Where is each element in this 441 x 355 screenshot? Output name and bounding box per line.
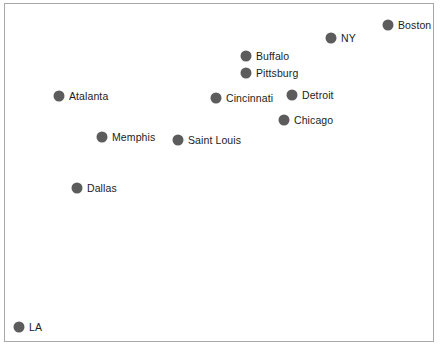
data-point-label: Detroit xyxy=(302,89,334,101)
data-point-marker xyxy=(383,20,394,31)
data-point-marker xyxy=(72,183,83,194)
data-point-marker xyxy=(173,135,184,146)
caption-strip xyxy=(4,345,434,355)
data-point-label: Atalanta xyxy=(69,90,108,102)
data-point-marker xyxy=(241,51,252,62)
data-point-marker xyxy=(326,33,337,44)
data-point-label: LA xyxy=(29,321,42,333)
data-point-label: Saint Louis xyxy=(188,134,241,146)
data-point-label: NY xyxy=(341,32,356,44)
data-point-label: Pittsburg xyxy=(256,67,298,79)
data-point-label: Chicago xyxy=(294,114,333,126)
data-point-marker xyxy=(14,322,25,333)
data-point-marker xyxy=(279,115,290,126)
data-point-label: Cincinnati xyxy=(226,92,273,104)
data-point-label: Dallas xyxy=(87,182,117,194)
data-point-marker xyxy=(97,132,108,143)
data-point-marker xyxy=(54,91,65,102)
data-point-label: Buffalo xyxy=(256,50,289,62)
scatter-figure: BostonNYBuffaloPittsburgAtalantaCincinna… xyxy=(0,0,441,355)
data-point-marker xyxy=(287,90,298,101)
data-point-label: Boston xyxy=(398,19,431,31)
data-point-label: Memphis xyxy=(112,131,155,143)
data-point-marker xyxy=(241,68,252,79)
plot-frame: BostonNYBuffaloPittsburgAtalantaCincinna… xyxy=(4,3,434,342)
data-point-marker xyxy=(211,93,222,104)
